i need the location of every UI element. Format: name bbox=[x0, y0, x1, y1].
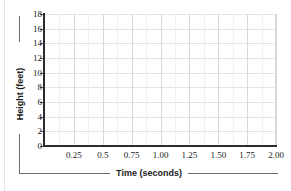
x-axis-tick-label: 0.5 bbox=[97, 151, 108, 160]
x-axis-tick-label: 1.00 bbox=[153, 151, 169, 160]
x-axis-title-group: Time (seconds) bbox=[20, 165, 278, 181]
x-axis-tick-label: 1.75 bbox=[239, 151, 255, 160]
x-axis-rule-left bbox=[20, 173, 110, 174]
chart-figure: Height (feet) 024681012141618 0.250.50.7… bbox=[0, 0, 291, 191]
x-axis-tick-label: 2.00 bbox=[268, 151, 284, 160]
x-axis-tick-label: 1.25 bbox=[182, 151, 198, 160]
x-axis-title: Time (seconds) bbox=[116, 168, 182, 178]
x-axis-tick-label: 1.50 bbox=[210, 151, 226, 160]
x-axis-rule-right bbox=[188, 173, 278, 174]
x-axis-tick-label: 0.75 bbox=[124, 151, 140, 160]
x-axis-tick-label: 0.25 bbox=[66, 151, 82, 160]
x-axis-tick-labels: 0.250.50.751.001.251.501.752.00 bbox=[0, 0, 291, 191]
